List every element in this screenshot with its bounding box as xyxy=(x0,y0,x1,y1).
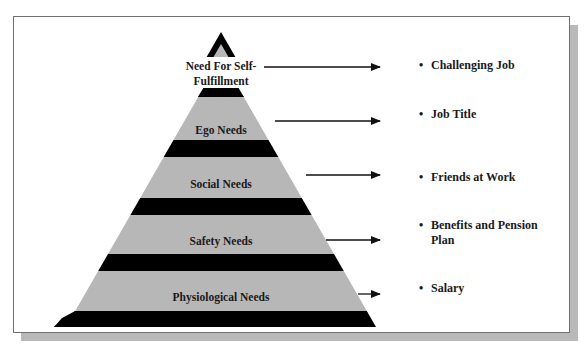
example-text: Salary xyxy=(419,281,569,296)
example-challenging-job: • Challenging Job xyxy=(419,58,569,73)
base-band xyxy=(54,311,376,327)
example-text: Benefits and Pension xyxy=(419,218,569,233)
level-label-safety: Safety Needs xyxy=(161,234,281,249)
example-text-continued: Plan xyxy=(419,233,569,248)
bullet-icon: • xyxy=(419,58,429,73)
example-text: Challenging Job xyxy=(419,58,569,73)
bullet-icon: • xyxy=(419,170,429,185)
divider-band xyxy=(98,254,344,271)
example-benefits-pension: • Benefits and Pension Plan xyxy=(419,218,569,248)
divider-band xyxy=(198,88,244,97)
example-salary: • Salary xyxy=(419,281,569,296)
example-text: Job Title xyxy=(419,107,569,122)
level-label-self-fulfillment: Need For Self- Fulfillment xyxy=(161,59,281,89)
level-label-physiological: Physiological Needs xyxy=(141,290,301,305)
bullet-icon: • xyxy=(419,218,429,233)
label-line: Fulfillment xyxy=(161,74,281,89)
example-friends-at-work: • Friends at Work xyxy=(419,170,569,185)
label-line: Need For Self- xyxy=(161,59,281,74)
example-job-title: • Job Title xyxy=(419,107,569,122)
level-label-ego: Ego Needs xyxy=(161,123,281,138)
bullet-icon: • xyxy=(419,107,429,122)
divider-band xyxy=(164,140,279,157)
apex-cap xyxy=(207,32,236,57)
divider-band xyxy=(130,198,311,215)
level-label-social: Social Needs xyxy=(161,177,281,192)
bullet-icon: • xyxy=(419,281,429,296)
example-text: Friends at Work xyxy=(419,170,569,185)
